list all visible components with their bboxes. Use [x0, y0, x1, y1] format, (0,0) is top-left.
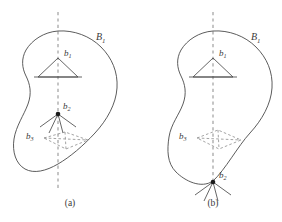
panel-b: B1 b1 b3 b2 [141, 0, 282, 222]
label-b1-a: b1 [64, 48, 72, 59]
caption-panel-b: (b) [183, 198, 243, 208]
vertex-dot-b2-a [56, 112, 61, 117]
region-label-b: B1 [251, 31, 261, 44]
label-b2-b: b2 [219, 170, 227, 181]
panel-a: B1 b1 b2 b3 [0, 0, 141, 222]
label-b2-a: b2 [63, 101, 71, 112]
triangle-b1-a [34, 58, 82, 77]
label-b1-b: b1 [219, 48, 227, 59]
quad-b3-b [197, 130, 241, 149]
triangle-b1-b [189, 58, 237, 77]
vertex-dot-b2-b [211, 180, 216, 185]
region-label-a: B1 [96, 31, 106, 44]
label-b3-a: b3 [26, 131, 34, 142]
figure-container: B1 b1 b2 b3 B1 [0, 0, 282, 222]
label-b3-b: b3 [179, 131, 187, 142]
caption-panel-a: (a) [40, 198, 100, 208]
